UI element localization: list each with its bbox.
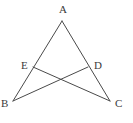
vertex-label-A: A bbox=[59, 4, 67, 15]
vertex-label-B: B bbox=[1, 98, 8, 109]
vertex-label-D: D bbox=[94, 60, 102, 71]
geometry-canvas bbox=[0, 0, 133, 123]
vertex-label-C: C bbox=[115, 98, 122, 109]
geometry-figure: A B C D E bbox=[0, 0, 133, 123]
vertex-label-E: E bbox=[21, 60, 28, 71]
segment-side-AC bbox=[62, 21, 110, 101]
segment-cevian-EC bbox=[33, 67, 110, 101]
segment-cevian-DB bbox=[13, 67, 88, 101]
